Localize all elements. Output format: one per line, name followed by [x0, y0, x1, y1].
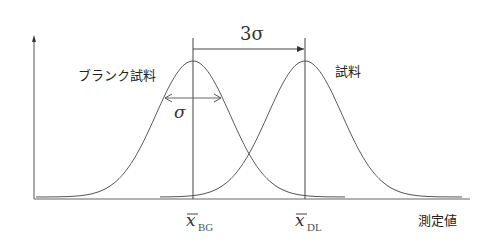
blank-sample-label: ブランク試料 [78, 68, 156, 83]
sample-label: 試料 [335, 64, 361, 79]
mean-dl-label: x DL [295, 210, 322, 233]
y-axis-arrow-icon [32, 35, 36, 42]
mean-bg-symbol: x [186, 210, 196, 230]
mean-bg-subscript: BG [198, 221, 213, 233]
x-axis-label: 測定値 [418, 213, 457, 228]
three-sigma-label: 3σ [240, 23, 264, 44]
sample-curve [160, 61, 462, 197]
sigma-label: σ [174, 102, 186, 122]
detection-limit-diagram: 3σ σ ブランク試料 試料 x BG x DL 測定値 [0, 0, 501, 250]
mean-bg-label: x BG [186, 210, 213, 233]
mean-dl-symbol: x [295, 210, 305, 230]
mean-dl-subscript: DL [307, 221, 322, 233]
